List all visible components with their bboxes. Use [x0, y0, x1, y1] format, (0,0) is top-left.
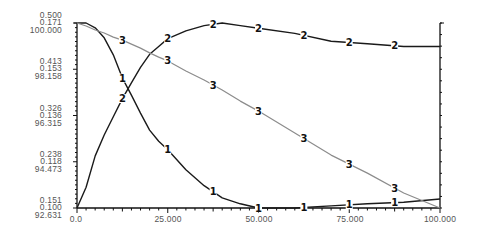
y-tick-stack-4: 0.151 0.100 92.631 — [2, 197, 62, 219]
series-3-marker: 3 — [300, 133, 307, 144]
series-3-marker: 3 — [119, 35, 126, 46]
x-tick-label: 25.000 — [154, 214, 181, 224]
y-tick-stack-0: 0.500 0.171 100.000 — [2, 12, 62, 34]
y-tick-label-axis-3: 94.473 — [2, 166, 62, 173]
series-3-marker: 3 — [346, 159, 353, 170]
series-3-marker: 3 — [164, 55, 171, 66]
line-chart: 111111122222223333333 — [0, 0, 480, 239]
series-1-marker: 1 — [164, 144, 171, 155]
y-tick-stack-3: 0.238 0.118 94.473 — [2, 151, 62, 173]
series-2-marker: 2 — [119, 93, 126, 104]
series-2-marker: 2 — [164, 33, 171, 44]
series-2-marker: 2 — [300, 30, 307, 41]
series-1-marker: 1 — [210, 186, 217, 197]
series-2-marker: 2 — [346, 37, 353, 48]
series-3-marker: 3 — [391, 183, 398, 194]
series-1-marker: 1 — [346, 199, 353, 210]
series-1-marker: 1 — [119, 73, 126, 84]
y-tick-label-axis-3: 96.315 — [2, 120, 62, 127]
y-tick-label-axis-3: 100.000 — [2, 27, 62, 34]
y-tick-label-axis-3: 98.158 — [2, 73, 62, 80]
series-1-marker: 1 — [300, 202, 307, 213]
y-tick-stack-1: 0.413 0.153 98.158 — [2, 58, 62, 80]
x-tick-label: 0.0 — [70, 214, 82, 224]
series-markers: 111111122222223333333 — [119, 19, 398, 214]
y-tick-label-axis-3: 92.631 — [2, 212, 62, 219]
x-tick-label: 100.000 — [424, 214, 456, 224]
x-tick-label: 50.000 — [245, 214, 272, 224]
x-tick-label: 75.000 — [336, 214, 363, 224]
y-tick-stack-2: 0.326 0.136 96.315 — [2, 105, 62, 127]
series-2-marker: 2 — [210, 19, 217, 30]
series-3-marker: 3 — [255, 106, 262, 117]
series-1-marker: 1 — [391, 197, 398, 208]
series-1-marker: 1 — [255, 203, 262, 214]
series-2-marker: 2 — [391, 40, 398, 51]
series-2-marker: 2 — [255, 23, 262, 34]
series-3-marker: 3 — [210, 80, 217, 91]
